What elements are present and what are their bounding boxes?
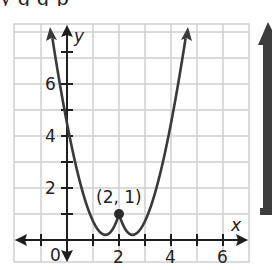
y-tick-label-6: 6 bbox=[45, 74, 56, 94]
y-tick-label-2: 2 bbox=[45, 178, 56, 198]
y-tick-label-4: 4 bbox=[45, 126, 56, 146]
parabola-graph: (2, 1) y x 0 2 4 6 6 4 2 bbox=[0, 0, 272, 270]
origin-label: 0 bbox=[50, 245, 61, 265]
vertex-point bbox=[114, 209, 124, 219]
x-axis-label: x bbox=[230, 215, 242, 235]
vertex-label: (2, 1) bbox=[96, 187, 142, 207]
side-up-arrow-icon bbox=[258, 22, 272, 215]
x-tick-label-2: 2 bbox=[113, 247, 124, 267]
x-tick-label-6: 6 bbox=[217, 247, 228, 267]
y-axis-label: y bbox=[73, 26, 85, 46]
x-tick-label-4: 4 bbox=[165, 247, 176, 267]
